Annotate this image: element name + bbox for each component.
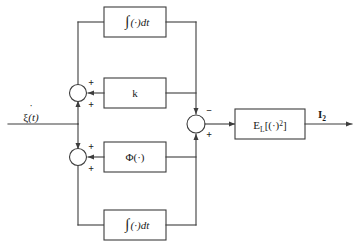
sign-upper-left-summer-top: + [88, 77, 94, 88]
input-label-arg: (t) [28, 111, 39, 124]
sign-upper-left-summer-bottom: + [88, 99, 94, 110]
block-label-integrator-bottom: ∫(·)dt [124, 216, 150, 233]
expectation-bracket-open: [(·) [265, 119, 280, 132]
sign-lower-left-summer-top: + [88, 141, 94, 152]
sign-lower-left-summer-bottom: + [88, 163, 94, 174]
sign-right-summer-top: − [206, 105, 212, 116]
expectation-bracket-close: ] [283, 119, 287, 131]
integral-body-bottom: (·)dt [131, 219, 151, 232]
block-diagram-canvas: ∫(·)dt k Φ(·) ∫(·)dt EL[(·)2] ˙ ξ(t) I2 … [0, 0, 358, 252]
output-label: I2 [318, 108, 326, 123]
summer-upper-left [70, 85, 87, 102]
summer-lower-left [70, 149, 87, 166]
block-label-gain-k: k [132, 87, 138, 99]
input-label: ξ(t) [23, 111, 39, 124]
block-label-phi: Φ(·) [125, 151, 144, 164]
integral-body-top: (·)dt [131, 16, 151, 29]
output-label-subscript: 2 [322, 114, 326, 123]
summer-right [187, 115, 205, 133]
block-label-integrator-top: ∫(·)dt [124, 13, 150, 30]
sign-right-summer-bottom: + [206, 129, 212, 140]
